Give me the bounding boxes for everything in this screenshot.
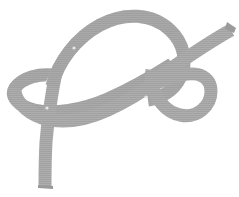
crossing-upper-left-marker <box>72 46 75 49</box>
crossing-right-marker <box>144 95 147 98</box>
right-lobe-strand <box>150 70 211 116</box>
crossing-lower-left-marker <box>45 106 48 109</box>
knot-figure: Knot diagram Gray flat ribbon band drawn… <box>0 0 239 197</box>
right-lobe-group <box>150 70 211 116</box>
knot-diagram-svg <box>0 0 239 197</box>
lower-tail-strand <box>45 72 56 186</box>
lower-tail-group <box>38 72 56 189</box>
